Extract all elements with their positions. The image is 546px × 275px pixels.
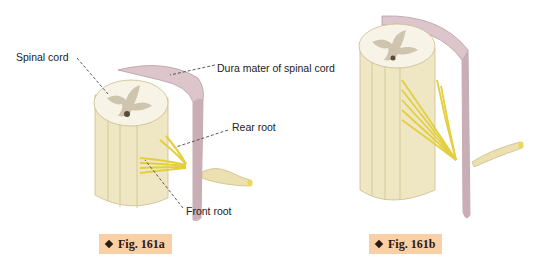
label-rear-root: Rear root bbox=[232, 121, 276, 133]
caption-fig-161b: Fig. 161b bbox=[369, 234, 442, 254]
diamond-bullet-icon bbox=[105, 240, 113, 248]
caption-text: Fig. 161a bbox=[118, 237, 165, 251]
spinal-cord-diagrams bbox=[0, 0, 546, 275]
caption-text: Fig. 161b bbox=[388, 237, 435, 251]
label-spinal-cord: Spinal cord bbox=[16, 51, 69, 63]
spinal-nerve-b bbox=[472, 142, 522, 167]
spinal-nerve-a bbox=[202, 169, 250, 187]
label-front-root: Front root bbox=[186, 205, 232, 217]
diamond-bullet-icon bbox=[375, 240, 383, 248]
figure-161b-illustration bbox=[359, 16, 524, 218]
label-dura-mater: Dura mater of spinal cord bbox=[217, 62, 335, 74]
figure-161a-illustration bbox=[77, 58, 253, 221]
caption-fig-161a: Fig. 161a bbox=[99, 234, 172, 254]
